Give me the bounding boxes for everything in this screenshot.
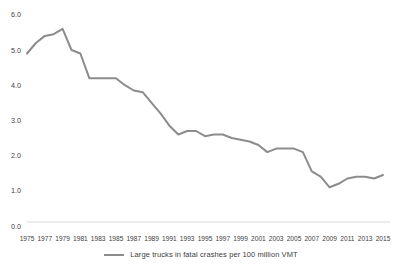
y-axis-tick-label: 1.0 <box>11 186 21 195</box>
x-axis-tick-label: 1987 <box>126 235 141 242</box>
y-axis-tick-label: 3.0 <box>11 116 21 125</box>
x-axis-tick-label: 2013 <box>358 235 373 242</box>
x-axis-tick-label: 1989 <box>144 235 159 242</box>
x-axis-tick-label: 2007 <box>304 235 319 242</box>
x-axis-tick-label: 1985 <box>109 235 124 242</box>
x-axis-tick-label: 1997 <box>215 235 230 242</box>
legend: Large trucks in fatal crashes per 100 mi… <box>0 250 402 259</box>
y-axis-tick-label: 0.0 <box>11 222 21 231</box>
x-axis-tick-label: 2003 <box>269 235 284 242</box>
x-axis-tick-label: 1999 <box>233 235 248 242</box>
x-axis-tick-label: 2005 <box>287 235 302 242</box>
x-axis-tick-label: 1975 <box>20 235 35 242</box>
x-axis-tick-label: 1977 <box>37 235 52 242</box>
y-axis-tick-label: 6.0 <box>11 10 21 19</box>
x-axis-tick-label: 2009 <box>322 235 337 242</box>
x-axis-tick-label: 1995 <box>198 235 213 242</box>
x-axis-tick-label: 1983 <box>91 235 106 242</box>
x-axis-tick-label: 1981 <box>73 235 88 242</box>
line-chart: 0.01.02.03.04.05.06.01975197719791981198… <box>0 0 402 271</box>
legend-label: Large trucks in fatal crashes per 100 mi… <box>130 250 297 259</box>
legend-line-marker <box>104 254 124 256</box>
x-axis-tick-label: 2001 <box>251 235 266 242</box>
x-axis-tick-label: 1991 <box>162 235 177 242</box>
line-chart-canvas: 0.01.02.03.04.05.06.01975197719791981198… <box>0 0 402 271</box>
x-axis-tick-label: 1993 <box>180 235 195 242</box>
y-axis-tick-label: 2.0 <box>11 151 21 160</box>
data-line-series <box>27 29 383 187</box>
y-axis-tick-label: 5.0 <box>11 46 21 55</box>
x-axis-tick-label: 2015 <box>376 235 391 242</box>
y-axis-tick-label: 4.0 <box>11 81 21 90</box>
x-axis-tick-label: 2011 <box>340 235 355 242</box>
x-axis-tick-label: 1979 <box>55 235 70 242</box>
